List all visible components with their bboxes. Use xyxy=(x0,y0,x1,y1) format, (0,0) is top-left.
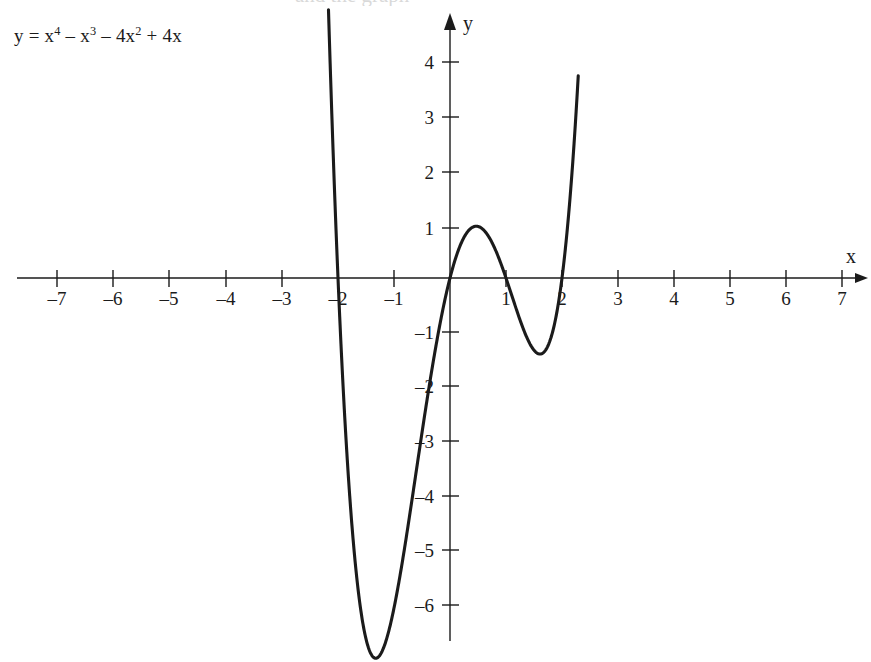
y-axis-arrow-head xyxy=(444,13,456,30)
x-axis-label: x xyxy=(846,245,856,267)
x-tick-label: 7 xyxy=(837,288,847,309)
y-axis xyxy=(444,13,456,641)
y-tick-label: –3 xyxy=(414,431,434,452)
x-tick-label: 4 xyxy=(669,288,679,309)
function-graph: –7 –6 –5 –4 –3 –2 –1 1 2 3 4 5 6 7 4 3 2… xyxy=(0,0,871,662)
y-axis-tick-labels: 4 3 2 1 –1 –2 –3 –4 –5 –6 xyxy=(414,52,435,616)
x-axis xyxy=(17,273,868,283)
y-tick-label: –1 xyxy=(414,322,434,343)
x-tick-label: –3 xyxy=(272,288,292,309)
x-tick-label: 6 xyxy=(781,288,791,309)
x-tick-label: –1 xyxy=(384,288,404,309)
y-tick-label: 1 xyxy=(425,218,435,239)
x-tick-label: –6 xyxy=(103,288,123,309)
y-tick-label: –6 xyxy=(414,595,434,616)
y-tick-label: –5 xyxy=(414,540,434,561)
y-tick-label: 4 xyxy=(425,52,435,73)
y-tick-label: 2 xyxy=(425,162,435,183)
x-tick-label: –4 xyxy=(216,288,237,309)
x-tick-label: –7 xyxy=(47,288,67,309)
x-tick-label: –5 xyxy=(159,288,179,309)
x-tick-label: 3 xyxy=(613,288,623,309)
y-tick-label: 3 xyxy=(425,107,435,128)
function-curve xyxy=(328,10,578,658)
y-axis-label: y xyxy=(463,12,473,35)
y-tick-label: –4 xyxy=(414,486,435,507)
x-tick-label: 5 xyxy=(725,288,735,309)
x-axis-arrow-head xyxy=(855,273,868,283)
